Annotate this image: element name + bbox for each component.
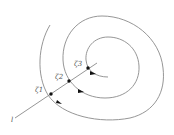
label-zeta-2: ζ2	[55, 73, 64, 81]
line-l	[15, 63, 97, 118]
point-zeta-2	[67, 79, 70, 82]
label-line-l: l	[11, 116, 13, 124]
label-zeta-3: ζ3	[74, 60, 83, 68]
label-zeta-1: ζ1	[35, 86, 43, 94]
point-zeta-1	[49, 92, 52, 95]
point-zeta-3	[86, 66, 89, 69]
spiral-curve	[40, 16, 164, 120]
spiral-diagram: ζ1 ζ2 ζ3 l	[0, 0, 174, 135]
arrow-icon	[56, 100, 62, 104]
